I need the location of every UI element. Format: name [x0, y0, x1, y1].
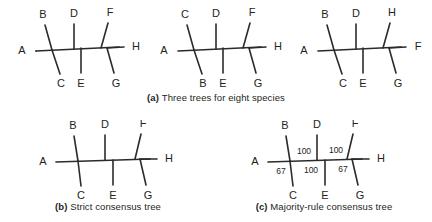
- tree-3-branch-top-1: [327, 25, 334, 50]
- caption-b-label: (b): [55, 201, 67, 212]
- tree-3-branch-top-3: [383, 23, 390, 48]
- tree-3-label-left: A: [300, 44, 308, 56]
- tree-3-label-bot-2: E: [359, 77, 366, 89]
- strict-branch-top-3: [135, 134, 141, 159]
- tree-3-label-bot-1: C: [339, 77, 347, 89]
- strict-branch-bot-3: [140, 159, 146, 185]
- support-below-center: 100: [304, 165, 318, 175]
- tree-3-branch-f: [389, 47, 406, 48]
- majority-label-top-2: D: [313, 120, 321, 130]
- tree-2: A H C D F B E G: [156, 6, 290, 90]
- tree-2-label-bot-1: B: [199, 77, 206, 89]
- tree-3-label-top-1: B: [321, 8, 328, 20]
- strict-label-bot-3: G: [144, 189, 153, 201]
- tree-1: A H B D F C E G: [14, 6, 148, 90]
- caption-c-label: (c): [256, 201, 268, 212]
- figure-root: A H B D F C E G A H C D F B E G A: [0, 0, 432, 222]
- strict-branch-top-1: [74, 136, 78, 161]
- caption-b-text: Strict consensus tree: [70, 201, 161, 212]
- tree-3-label-bot-3: G: [394, 77, 403, 89]
- majority-branch-bot-3: [352, 159, 358, 185]
- majority-branch-top-3: [347, 134, 353, 159]
- majority-label-bot-2: E: [321, 189, 328, 201]
- tree-3: A F B D H C E G: [296, 6, 430, 90]
- tree-2-label-top-3: F: [249, 6, 256, 18]
- tree-1-label-top-1: B: [39, 8, 46, 20]
- majority-branch-bot-1: [290, 161, 293, 186]
- strict-label-bot-2: E: [109, 189, 116, 201]
- tree-2-branch-top-3: [243, 23, 250, 48]
- tree-1-branch-top-1: [45, 25, 52, 50]
- strict-label-left: A: [39, 155, 47, 167]
- tree-3-label-top-3: H: [388, 6, 396, 18]
- tree-1-branch-bot-3: [107, 48, 114, 73]
- majority-label-top-3: F: [352, 120, 359, 129]
- tree-1-branch-h: [107, 47, 124, 48]
- support-above-right: 100: [329, 145, 343, 155]
- tree-2-label-right: H: [274, 40, 282, 52]
- majority-label-top-1: B: [281, 120, 288, 131]
- tree-1-label-left: A: [18, 44, 26, 56]
- tree-1-label-top-3: F: [107, 6, 114, 18]
- tree-2-label-left: A: [160, 44, 168, 56]
- support-above-left: 100: [297, 146, 311, 156]
- tree-3-label-right: F: [415, 40, 422, 52]
- tree-2-branch-h: [249, 47, 266, 48]
- tree-1-label-bot-2: E: [77, 77, 84, 89]
- tree-1-branch-top-3: [101, 23, 108, 48]
- tree-1-label-bot-1: C: [57, 77, 65, 89]
- tree-2-branch-bot-1: [194, 50, 202, 74]
- tree-1-branch-bot-1: [52, 50, 60, 74]
- caption-a-text: Three trees for eight species: [162, 92, 285, 103]
- strict-label-right: H: [165, 152, 173, 164]
- majority-rule-consensus-tree: A H B D F C E G 100 100 67 100 67: [248, 120, 398, 202]
- tree-1-label-top-2: D: [70, 7, 78, 19]
- support-below-left: 67: [276, 166, 286, 176]
- tree-3-branch-bot-3: [389, 48, 396, 73]
- tree-2-branch-bot-3: [249, 48, 256, 73]
- strict-branch-bot-1: [78, 161, 81, 186]
- strict-label-top-2: D: [101, 120, 109, 130]
- strict-label-top-3: F: [140, 120, 147, 129]
- caption-c-text: Majority-rule consensus tree: [270, 201, 392, 212]
- caption-c: (c) Majority-rule consensus tree: [216, 201, 432, 212]
- tree-1-label-right: H: [132, 40, 140, 52]
- strict-label-top-1: B: [69, 120, 76, 131]
- tree-2-branch-top-1: [187, 25, 194, 50]
- majority-label-left: A: [251, 155, 259, 167]
- strict-consensus-tree: A H B D F C E G: [36, 120, 186, 202]
- strict-spine: [56, 159, 150, 162]
- strict-label-bot-1: C: [77, 189, 85, 201]
- majority-label-bot-3: G: [356, 189, 365, 201]
- tree-2-label-bot-3: G: [254, 77, 263, 89]
- majority-spine: [268, 159, 362, 162]
- caption-a-label: (a): [147, 92, 159, 103]
- caption-b: (b) Strict consensus tree: [0, 201, 216, 212]
- tree-3-label-top-2: D: [352, 7, 360, 19]
- tree-1-label-bot-3: G: [112, 77, 121, 89]
- majority-branch-top-1: [286, 136, 290, 161]
- tree-2-label-top-1: C: [181, 8, 189, 20]
- majority-label-bot-1: C: [289, 189, 297, 201]
- majority-label-right: H: [377, 152, 385, 164]
- tree-2-label-top-2: D: [212, 7, 220, 19]
- caption-a: (a) Three trees for eight species: [0, 92, 432, 103]
- tree-2-label-bot-2: E: [219, 77, 226, 89]
- tree-3-branch-bot-1: [334, 50, 342, 74]
- support-below-right: 67: [338, 164, 348, 174]
